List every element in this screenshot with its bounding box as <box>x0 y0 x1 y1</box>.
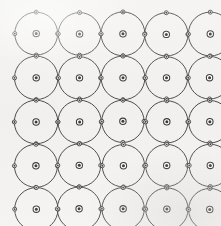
edge-node-dot <box>101 208 103 210</box>
lattice-figure <box>0 0 221 226</box>
edge-node-dot <box>57 164 59 166</box>
edge-node-dot <box>56 208 58 210</box>
edge-node-dot <box>209 100 211 102</box>
edge-node-dot <box>122 11 124 13</box>
edge-node-dot <box>166 100 168 102</box>
edge-node-dot <box>122 99 124 101</box>
edge-node-dot <box>122 55 124 57</box>
center-node-dot <box>209 33 212 36</box>
center-node-dot <box>34 164 37 167</box>
edge-node-dot <box>188 121 190 123</box>
center-node-dot <box>165 33 168 36</box>
center-node-dot <box>122 207 125 210</box>
edge-node-dot <box>209 187 211 189</box>
center-node-dot <box>35 76 38 79</box>
edge-node-dot <box>35 99 37 101</box>
edge-node-dot <box>14 208 16 210</box>
center-node-dot <box>121 32 124 35</box>
edge-node-dot <box>79 12 81 14</box>
edge-node-dot <box>78 143 80 145</box>
edge-node-dot <box>13 165 15 167</box>
center-node-dot <box>122 164 125 167</box>
edge-node-dot <box>166 187 168 189</box>
edge-node-dot <box>35 55 37 57</box>
edge-node-dot <box>100 33 102 35</box>
center-node-dot <box>78 120 81 123</box>
edge-node-dot <box>144 33 146 35</box>
edge-node-dot <box>57 121 59 123</box>
center-node-dot <box>209 164 212 167</box>
center-node-dot <box>122 76 125 79</box>
center-node-dot <box>121 120 124 123</box>
center-node-dot <box>208 76 211 79</box>
edge-node-dot <box>122 144 124 146</box>
edge-node-dot <box>187 77 189 79</box>
edge-node-dot <box>122 187 124 189</box>
edge-node-dot <box>57 77 59 79</box>
edge-node-dot <box>78 186 80 188</box>
edge-node-dot <box>188 164 190 166</box>
center-node-dot <box>78 32 81 35</box>
center-node-dot <box>35 120 38 123</box>
edge-node-dot <box>145 208 147 210</box>
edge-node-dot <box>35 11 37 13</box>
edge-node-dot <box>209 143 211 145</box>
edge-node-dot <box>187 33 189 35</box>
edge-node-dot <box>188 209 190 211</box>
edge-node-dot <box>79 99 81 101</box>
center-node-dot <box>208 120 211 123</box>
edge-node-dot <box>145 164 147 166</box>
edge-node-dot <box>209 11 211 13</box>
center-node-dot <box>35 32 38 35</box>
edge-node-dot <box>100 77 102 79</box>
edge-node-dot <box>145 121 147 123</box>
edge-node-dot <box>145 77 147 79</box>
center-node-dot <box>165 164 168 167</box>
center-node-dot <box>165 120 168 123</box>
edge-node-dot <box>166 143 168 145</box>
center-node-dot <box>165 208 168 211</box>
center-node-dot <box>35 208 38 211</box>
center-node-dot <box>78 164 81 167</box>
edge-node-dot <box>166 56 168 58</box>
edge-node-dot <box>79 56 81 58</box>
lattice-diagram <box>0 0 221 226</box>
edge-node-dot <box>35 143 37 145</box>
edge-node-dot <box>57 33 59 35</box>
edge-node-dot <box>14 33 16 35</box>
edge-node-dot <box>101 165 103 167</box>
center-node-dot <box>165 76 168 79</box>
edge-node-dot <box>35 187 37 189</box>
center-node-dot <box>78 76 81 79</box>
center-node-dot <box>208 208 211 211</box>
edge-node-dot <box>165 12 167 14</box>
edge-node-dot <box>101 120 103 122</box>
center-node-dot <box>78 207 81 210</box>
edge-node-dot <box>209 55 211 57</box>
edge-node-dot <box>13 121 15 123</box>
edge-node-dot <box>14 77 16 79</box>
